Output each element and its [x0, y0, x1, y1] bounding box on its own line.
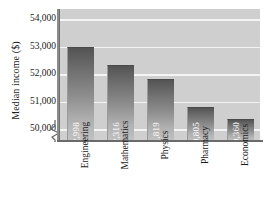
x-axis-category: Pharmacy	[180, 143, 220, 219]
x-axis-category-label: Economics	[240, 124, 250, 166]
y-axis-tick-label: 52,000	[16, 69, 56, 79]
bars-layer: 52,99852,31651,81950,80550,360	[60, 9, 260, 141]
x-axis-category-label: Physics	[160, 130, 170, 159]
x-axis-category-label: Pharmacy	[200, 126, 210, 164]
plot-area: 52,99852,31651,81950,80550,360	[60, 9, 260, 141]
y-axis-tick-label: 53,000	[16, 42, 56, 52]
x-axis-category: Mathematics	[100, 143, 140, 219]
y-axis-tick-label: 54,000	[16, 14, 56, 24]
x-axis-category-label: Mathematics	[120, 120, 130, 169]
y-axis-spine-inner	[59, 9, 60, 141]
x-axis-category: Economics	[220, 143, 260, 219]
y-axis-tick-label: 51,000	[16, 97, 56, 107]
x-axis-category: Engineering	[60, 143, 100, 219]
bar-chart-figure: Median income ($) 50,00051,00052,00053,0…	[0, 0, 266, 219]
x-axis-category-label: Engineering	[80, 122, 90, 168]
x-axis-category-labels: EngineeringMathematicsPhysicsPharmacyEco…	[60, 143, 260, 219]
x-axis-category: Physics	[140, 143, 180, 219]
